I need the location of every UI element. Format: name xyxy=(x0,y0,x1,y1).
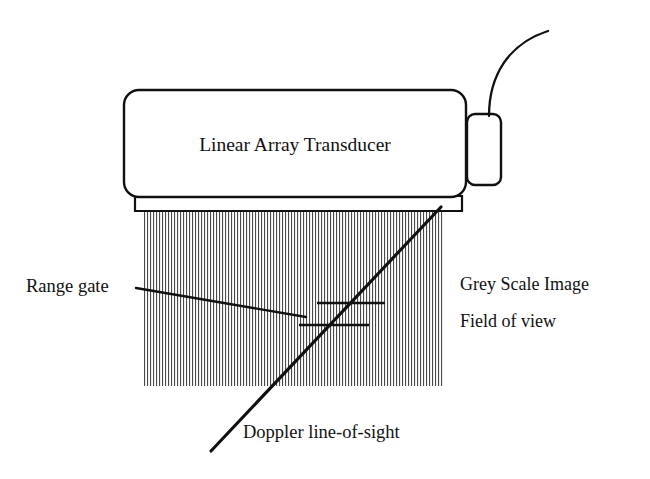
field-of-view-hatch xyxy=(144,212,443,386)
connector-box xyxy=(467,114,501,185)
cable xyxy=(489,31,548,116)
doppler-line-of-sight-label: Doppler line-of-sight xyxy=(243,422,401,442)
field-of-view-label: Field of view xyxy=(460,311,556,331)
ultrasound-transducer-diagram: Linear Array Transducer Range gate Grey … xyxy=(0,0,650,479)
transducer-footplate xyxy=(135,196,462,211)
grey-scale-image-label: Grey Scale Image xyxy=(460,274,589,294)
transducer-body-label: Linear Array Transducer xyxy=(199,134,391,155)
range-gate-label: Range gate xyxy=(26,276,109,296)
